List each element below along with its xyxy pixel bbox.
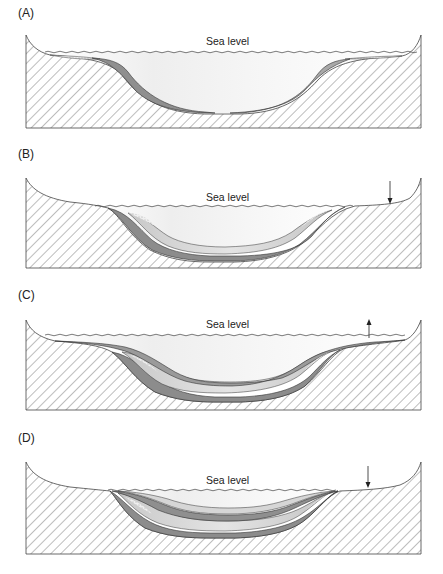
panel-b: Sea level — [26, 178, 421, 268]
basin-diagram: Sea level Sea level Sea level — [0, 0, 443, 574]
down-arrow-icon — [388, 181, 393, 204]
panel-label-b: (B) — [18, 147, 34, 161]
panel-label-d: (D) — [18, 431, 35, 445]
panel-label-a: (A) — [18, 6, 34, 20]
panel-a: Sea level — [26, 35, 421, 128]
down-arrow-icon — [366, 466, 371, 488]
sea-level-label: Sea level — [206, 35, 249, 47]
sea-level-label: Sea level — [206, 318, 249, 330]
panel-label-c: (C) — [18, 288, 35, 302]
panel-d: Sea level — [26, 462, 421, 554]
sea-level-label: Sea level — [206, 191, 249, 203]
panel-c: Sea level — [26, 318, 421, 410]
sea-level-label: Sea level — [206, 474, 249, 486]
